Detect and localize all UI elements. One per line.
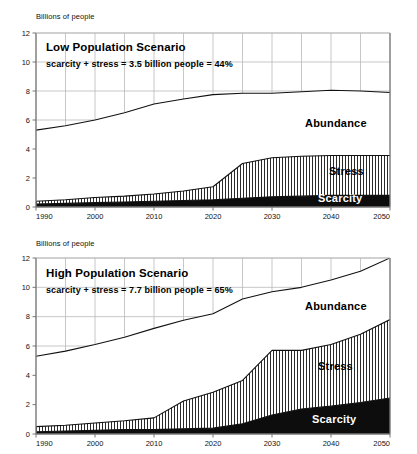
svg-text:10: 10 <box>22 58 30 67</box>
svg-text:12: 12 <box>22 29 30 38</box>
band-label-scarcity-high: Scarcity <box>312 413 356 425</box>
svg-text:6: 6 <box>26 116 30 125</box>
svg-text:12: 12 <box>22 254 30 263</box>
svg-text:2050: 2050 <box>373 212 390 221</box>
svg-text:2000: 2000 <box>87 212 104 221</box>
chart-panel-low-population: Billions of people 024681012199020002010… <box>0 0 417 227</box>
svg-text:2050: 2050 <box>373 439 390 448</box>
svg-text:6: 6 <box>26 342 30 351</box>
svg-text:2040: 2040 <box>323 439 340 448</box>
svg-text:2030: 2030 <box>264 212 281 221</box>
band-label-abundance-high: Abundance <box>305 300 367 312</box>
svg-text:4: 4 <box>26 371 30 380</box>
svg-text:10: 10 <box>22 283 30 292</box>
svg-text:2020: 2020 <box>205 212 222 221</box>
series-areas-low <box>36 90 390 207</box>
svg-text:1990: 1990 <box>36 212 53 221</box>
scenario-title-high: High Population Scenario <box>46 267 188 279</box>
svg-text:4: 4 <box>26 145 30 154</box>
svg-text:2000: 2000 <box>87 439 104 448</box>
svg-text:2: 2 <box>26 400 30 409</box>
scenario-title-low: Low Population Scenario <box>46 41 186 53</box>
svg-text:2040: 2040 <box>323 212 340 221</box>
figure-root: Billions of people 024681012199020002010… <box>0 0 417 454</box>
svg-text:8: 8 <box>26 312 30 321</box>
svg-text:1990: 1990 <box>36 439 53 448</box>
svg-text:2030: 2030 <box>264 439 281 448</box>
scenario-subtitle-low: scarcity + stress = 3.5 billion people =… <box>46 59 233 69</box>
svg-text:8: 8 <box>26 87 30 96</box>
svg-text:0: 0 <box>26 430 30 439</box>
svg-text:2010: 2010 <box>146 212 163 221</box>
band-label-stress-low: Stress <box>329 165 364 177</box>
svg-text:2: 2 <box>26 174 30 183</box>
band-label-stress-high: Stress <box>318 360 353 372</box>
band-label-abundance-low: Abundance <box>305 117 367 129</box>
svg-text:2020: 2020 <box>205 439 222 448</box>
svg-text:0: 0 <box>26 203 30 212</box>
chart-panel-high-population: Billions of people 024681012199020002010… <box>0 227 417 454</box>
svg-text:2010: 2010 <box>146 439 163 448</box>
scenario-subtitle-high: scarcity + stress = 7.7 billion people =… <box>46 285 233 295</box>
band-label-scarcity-low: Scarcity <box>318 192 362 204</box>
